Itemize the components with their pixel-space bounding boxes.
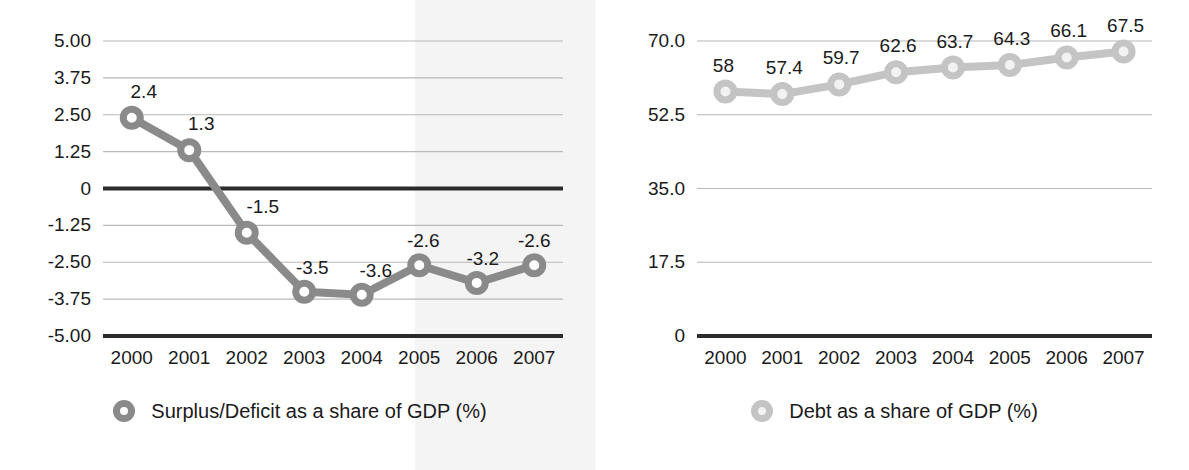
y-axis-tick-label: 0 (80, 179, 91, 198)
data-point-label: -1.5 (246, 197, 279, 216)
data-point-label: 66.1 (1050, 21, 1087, 40)
x-axis-tick-label: 2002 (818, 348, 860, 367)
x-axis-tick-label: 2006 (456, 348, 498, 367)
legend-marker-icon (113, 400, 135, 422)
charts-container: 5.003.752.501.250-1.25-2.50-3.75-5.002.4… (0, 0, 1189, 470)
x-axis-tick-label: 2001 (168, 348, 210, 367)
data-point-marker (888, 64, 905, 81)
legend-label-surplus-deficit: Surplus/Deficit as a share of GDP (%) (151, 401, 486, 421)
y-axis-tick-label: 70.0 (648, 31, 685, 50)
data-point-marker (1058, 49, 1075, 66)
y-axis-tick-label: -5.00 (48, 326, 91, 345)
data-point-label: 1.3 (188, 114, 214, 133)
y-axis-tick-label: -2.50 (48, 252, 91, 271)
x-axis-tick-label: 2006 (1046, 348, 1088, 367)
x-axis-tick-label: 2007 (1102, 348, 1144, 367)
data-point-label: 59.7 (823, 48, 860, 67)
data-point-label: 58 (713, 56, 734, 75)
y-axis-tick-label: 0 (674, 326, 685, 345)
data-point-label: 62.6 (880, 36, 917, 55)
y-axis-tick-label: -1.25 (48, 215, 91, 234)
chart-panel-surplus-deficit: 5.003.752.501.250-1.25-2.50-3.75-5.002.4… (0, 0, 600, 470)
plot-area-surplus-deficit: 5.003.752.501.250-1.25-2.50-3.75-5.002.4… (0, 0, 600, 390)
data-point-marker (526, 257, 543, 274)
y-axis-tick-label: 35.0 (648, 179, 685, 198)
y-axis-tick-label: 17.5 (648, 252, 685, 271)
chart-svg-debt (600, 0, 1189, 390)
data-point-label: -2.6 (518, 231, 551, 250)
x-axis-tick-label: 2000 (111, 348, 153, 367)
x-axis-tick-label: 2004 (932, 348, 974, 367)
x-axis-tick-label: 2007 (513, 348, 555, 367)
chart-panel-debt: 70.052.535.017.505857.459.762.663.764.36… (600, 0, 1189, 470)
data-point-marker (238, 224, 255, 241)
data-point-marker (774, 86, 791, 103)
data-point-marker (717, 83, 734, 100)
x-axis-tick-label: 2001 (761, 348, 803, 367)
x-axis-tick-label: 2005 (398, 348, 440, 367)
data-point-marker (353, 286, 370, 303)
y-axis-tick-label: -3.75 (48, 289, 91, 308)
data-point-marker (1115, 43, 1132, 60)
data-point-label: -2.6 (407, 231, 440, 250)
legend-label-debt: Debt as a share of GDP (%) (789, 401, 1038, 421)
y-axis-tick-label: 5.00 (54, 31, 91, 50)
data-point-label: -3.6 (359, 261, 392, 280)
data-point-marker (411, 257, 428, 274)
data-point-label: 57.4 (766, 58, 803, 77)
data-point-marker (944, 59, 961, 76)
data-point-marker (1001, 57, 1018, 74)
data-point-label: 2.4 (131, 82, 157, 101)
legend-debt: Debt as a share of GDP (%) (600, 400, 1189, 422)
x-axis-tick-label: 2003 (875, 348, 917, 367)
data-point-marker (831, 76, 848, 93)
legend-surplus-deficit: Surplus/Deficit as a share of GDP (%) (0, 400, 600, 422)
y-axis-tick-label: 52.5 (648, 105, 685, 124)
plot-area-debt: 70.052.535.017.505857.459.762.663.764.36… (600, 0, 1189, 390)
y-axis-tick-label: 1.25 (54, 142, 91, 161)
data-point-label: -3.2 (466, 249, 499, 268)
data-point-label: -3.5 (296, 258, 329, 277)
data-point-label: 64.3 (993, 29, 1030, 48)
x-axis-tick-label: 2002 (226, 348, 268, 367)
x-axis-tick-label: 2004 (341, 348, 383, 367)
x-axis-tick-label: 2005 (989, 348, 1031, 367)
x-axis-tick-label: 2003 (283, 348, 325, 367)
data-point-marker (181, 142, 198, 159)
data-point-label: 63.7 (936, 32, 973, 51)
data-point-label: 67.5 (1107, 16, 1144, 35)
data-point-marker (123, 109, 140, 126)
y-axis-tick-label: 2.50 (54, 105, 91, 124)
legend-marker-icon (751, 400, 773, 422)
x-axis-tick-label: 2000 (704, 348, 746, 367)
data-point-marker (468, 274, 485, 291)
data-point-marker (296, 283, 313, 300)
y-axis-tick-label: 3.75 (54, 68, 91, 87)
